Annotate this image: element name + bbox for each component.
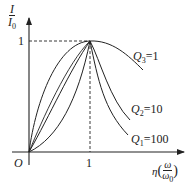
- x-axis-label: η( ω ω0 ): [152, 160, 178, 184]
- y-tick-1: 1: [18, 35, 24, 47]
- legend-q2: Q2=10: [131, 103, 162, 118]
- curve-q2: [29, 41, 130, 152]
- legend-q1: Q1=100: [131, 133, 168, 148]
- legend-q3: Q3=1: [133, 50, 158, 65]
- curve-q1: [29, 41, 128, 152]
- origin-label: O: [14, 157, 23, 169]
- x-tick-1: 1: [86, 157, 92, 169]
- y-axis-label: I I0: [8, 3, 16, 31]
